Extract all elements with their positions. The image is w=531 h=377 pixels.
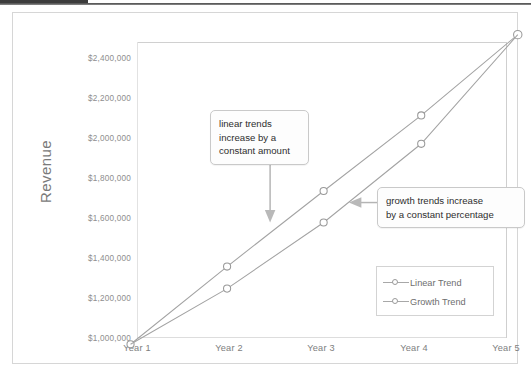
plot-top-border (137, 42, 506, 43)
data-point-marker (418, 112, 425, 119)
y-axis-tick-labels: $2,400,000 $2,200,000 $2,000,000 $1,800,… (61, 13, 131, 365)
x-tick-label: Year 5 (466, 343, 531, 353)
y-tick-label: $1,800,000 (63, 174, 131, 183)
y-tick-label: $1,200,000 (63, 294, 131, 303)
y-tick-label: $2,000,000 (63, 134, 131, 143)
data-point-marker (224, 263, 231, 270)
x-axis-tick-labels: Year 1 Year 2 Year 3 Year 4 Year 5 (137, 343, 506, 363)
annotation-text-line: growth trends increase (386, 194, 516, 208)
legend-marker-icon (383, 297, 409, 307)
data-point-marker (320, 219, 327, 226)
legend-marker-icon (383, 278, 409, 288)
chart-legend[interactable]: Linear Trend Growth Trend (376, 266, 494, 316)
y-axis-title: Revenue (37, 112, 54, 232)
x-tick-label: Year 2 (189, 343, 269, 353)
x-tick-label: Year 3 (281, 343, 361, 353)
callout-linear-connector (265, 165, 275, 223)
legend-label: Linear Trend (410, 278, 462, 288)
y-tick-label: $1,400,000 (63, 254, 131, 263)
annotation-text-line: linear trends (219, 117, 300, 131)
annotation-callout-linear[interactable]: linear trends increase by a constant amo… (210, 110, 309, 165)
data-point-marker (418, 140, 425, 147)
annotation-text-line: by a constant percentage (386, 208, 516, 222)
plot-left-axis (137, 42, 138, 338)
x-tick-label: Year 4 (374, 343, 454, 353)
chart-screenshot: Revenue $2,400,000 $2,200,000 $2,000,000… (0, 0, 531, 377)
annotation-callout-growth[interactable]: growth trends increase by a constant per… (377, 187, 525, 228)
annotation-text-line: increase by a (219, 131, 300, 145)
plot-bottom-axis (137, 337, 506, 338)
legend-item-growth-trend[interactable]: Growth Trend (383, 292, 489, 311)
data-point-marker (320, 187, 327, 194)
annotation-text-line: constant amount (219, 144, 300, 158)
chart-object-frame[interactable]: Revenue $2,400,000 $2,200,000 $2,000,000… (12, 12, 518, 364)
data-point-marker (224, 285, 231, 292)
legend-item-linear-trend[interactable]: Linear Trend (383, 273, 489, 292)
y-tick-label: $1,000,000 (63, 334, 131, 343)
x-tick-label: Year 1 (97, 343, 177, 353)
y-tick-label: $2,400,000 (63, 54, 131, 63)
y-tick-label: $1,600,000 (63, 214, 131, 223)
data-point-marker (514, 30, 522, 38)
legend-label: Growth Trend (410, 297, 466, 307)
y-tick-label: $2,200,000 (63, 94, 131, 103)
window-top-rule (0, 3, 531, 5)
